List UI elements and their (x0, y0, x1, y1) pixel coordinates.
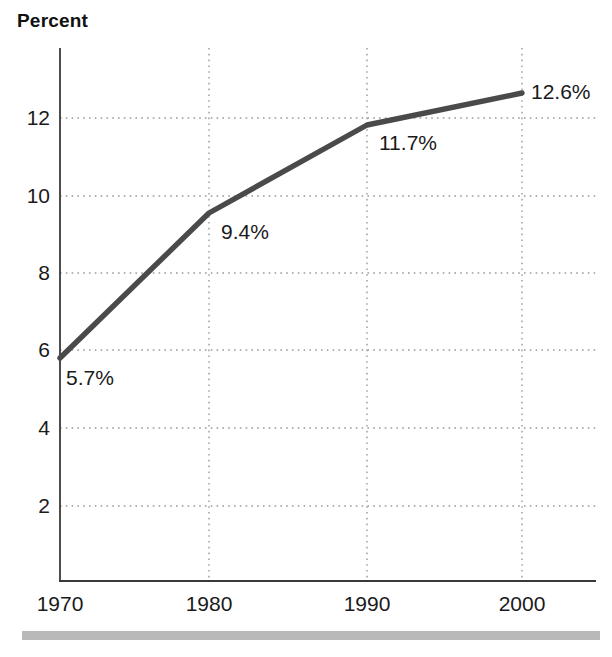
y-tick-label-10: 10 (6, 184, 50, 208)
x-tick-label-2000: 2000 (499, 592, 546, 616)
y-tick-label-6: 6 (6, 338, 50, 362)
x-tick-label-1980: 1980 (186, 592, 233, 616)
data-label-1970: 5.7% (66, 366, 114, 390)
y-tick-label-2: 2 (6, 494, 50, 518)
line-chart: Percent 12 10 8 6 4 (0, 0, 612, 657)
data-label-1980: 9.4% (221, 220, 269, 244)
x-tick-label-1970: 1970 (37, 592, 84, 616)
data-label-2000: 12.6% (531, 80, 591, 104)
data-label-1990: 11.7% (379, 131, 437, 155)
x-tick-label-1990: 1990 (344, 592, 391, 616)
plot-area (0, 0, 612, 657)
y-tick-label-8: 8 (6, 261, 50, 285)
data-line-percent (60, 93, 522, 358)
bottom-divider-rule (22, 631, 600, 640)
y-tick-label-12: 12 (6, 106, 50, 130)
horizontal-gridlines (60, 118, 596, 506)
y-tick-label-4: 4 (6, 416, 50, 440)
